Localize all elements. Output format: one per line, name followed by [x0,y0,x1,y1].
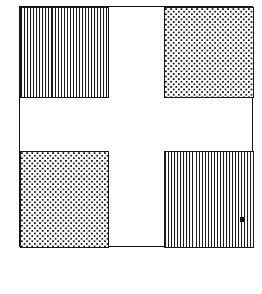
quadrant-top-right [164,7,254,98]
outer-square-frame [19,6,253,247]
figure-root [0,0,262,294]
quadrant-top-left [20,7,109,98]
quadrant-bottom-right [164,151,254,248]
artifact-mark [240,217,244,222]
quadrant-bottom-left [20,151,109,248]
